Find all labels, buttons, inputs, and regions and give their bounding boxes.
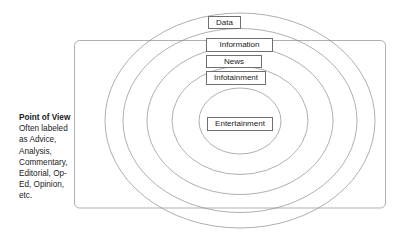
point-of-view-line: Analysis, [19, 146, 85, 157]
ring-label-entertainment[interactable]: Entertainment [207, 117, 273, 131]
point-of-view-annotation: Point of View Often labeled as Advice, A… [19, 112, 85, 202]
ring-label-news[interactable]: News [206, 55, 262, 68]
ring-label-data[interactable]: Data [208, 16, 241, 29]
ring-label-infotainment[interactable]: Infotainment [206, 71, 266, 85]
point-of-view-line: Editorial, Op- [19, 168, 85, 179]
point-of-view-line: Ed, Opinion, [19, 179, 85, 190]
ring-label-information[interactable]: Information [206, 38, 273, 52]
point-of-view-title: Point of View [19, 112, 85, 123]
diagram-canvas: Data Information News Infotainment Enter… [0, 0, 406, 238]
point-of-view-line: etc. [19, 190, 85, 201]
point-of-view-line: as Advice, [19, 134, 85, 145]
point-of-view-line: Commentary, [19, 157, 85, 168]
point-of-view-line: Often labeled [19, 123, 85, 134]
